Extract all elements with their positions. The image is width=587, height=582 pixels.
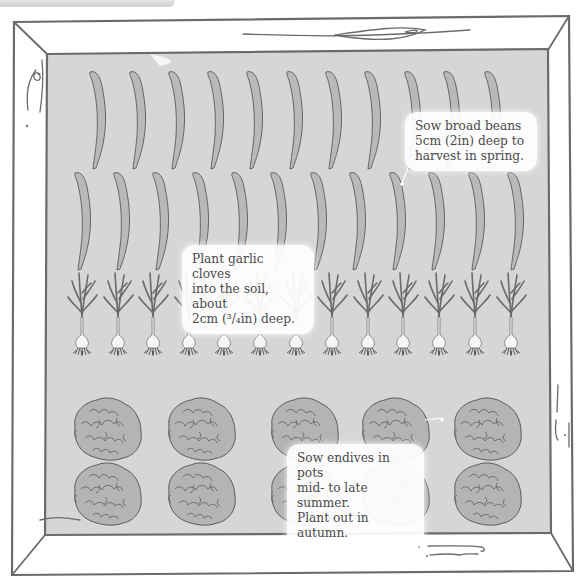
page-tab-edge <box>0 0 175 7</box>
callout-endives: Sow endives in pots mid- to late summer.… <box>287 444 424 548</box>
planting-diagram: Sow broad beans 5cm (2in) deep to harves… <box>0 0 587 582</box>
callout-broad-beans: Sow broad beans 5cm (2in) deep to harves… <box>405 112 537 171</box>
callout-garlic: Plant garlic cloves into the soil, about… <box>182 245 314 334</box>
